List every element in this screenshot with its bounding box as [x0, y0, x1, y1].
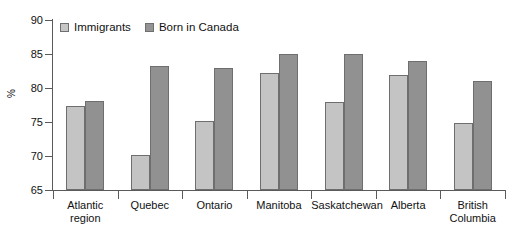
chart-legend: Immigrants Born in Canada	[60, 21, 239, 33]
bar-atlantic-region-immigrants	[66, 106, 85, 190]
bar-atlantic-region-born-in-canada	[85, 101, 104, 190]
bar-alberta-born-in-canada	[408, 61, 427, 190]
bar-saskatchewan-born-in-canada	[344, 54, 363, 190]
x-axis-label-alberta: Alberta	[376, 199, 441, 212]
bar-british-columbia-immigrants	[454, 123, 473, 190]
y-tick-label-80: 80	[1, 83, 43, 93]
legend-label-born-in-canada: Born in Canada	[159, 21, 239, 33]
legend-item-born-in-canada: Born in Canada	[145, 21, 239, 33]
legend-label-immigrants: Immigrants	[74, 21, 131, 33]
category-separator-2	[182, 190, 183, 199]
bar-alberta-immigrants	[389, 75, 408, 190]
y-axis-line	[52, 19, 53, 191]
y-tick-label-70: 70	[1, 151, 43, 161]
x-axis-line	[52, 190, 505, 191]
bar-quebec-immigrants	[131, 155, 150, 190]
y-tick-label-75: 75	[1, 117, 43, 127]
x-axis-label-british-columbia: British Columbia	[440, 199, 505, 225]
bar-british-columbia-born-in-canada	[473, 81, 492, 190]
bar-quebec-born-in-canada	[150, 66, 169, 190]
y-tick-label-90: 90	[1, 15, 43, 25]
legend-swatch-born-in-canada	[145, 23, 154, 32]
category-separator-3	[247, 190, 248, 199]
category-separator-4	[311, 190, 312, 199]
y-tick-70	[45, 156, 52, 157]
x-axis-label-quebec: Quebec	[118, 199, 183, 212]
bar-ontario-immigrants	[195, 121, 214, 190]
x-axis-label-saskatchewan: Saskatchewan	[311, 199, 376, 212]
category-separator-start	[53, 190, 54, 199]
y-tick-65	[45, 190, 52, 191]
category-separator-6	[440, 190, 441, 199]
y-tick-80	[45, 88, 52, 89]
bar-chart: % 908580757065 Immigrants Born in Canada…	[0, 0, 521, 241]
y-tick-90	[45, 20, 52, 21]
category-separator-5	[376, 190, 377, 199]
bar-ontario-born-in-canada	[214, 68, 233, 190]
bar-manitoba-immigrants	[260, 73, 279, 190]
legend-swatch-immigrants	[60, 23, 69, 32]
legend-item-immigrants: Immigrants	[60, 21, 131, 33]
bar-manitoba-born-in-canada	[279, 54, 298, 190]
category-separator-end	[505, 190, 506, 199]
bar-saskatchewan-immigrants	[325, 102, 344, 190]
x-axis-label-atlantic-region: Atlantic region	[53, 199, 118, 225]
y-tick-label-85: 85	[1, 49, 43, 59]
category-separator-1	[118, 190, 119, 199]
x-axis-label-manitoba: Manitoba	[247, 199, 312, 212]
y-tick-85	[45, 54, 52, 55]
y-tick-75	[45, 122, 52, 123]
x-axis-label-ontario: Ontario	[182, 199, 247, 212]
y-tick-label-65: 65	[1, 185, 43, 195]
